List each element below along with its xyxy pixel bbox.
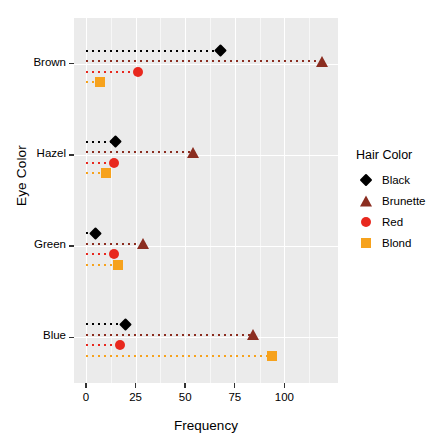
series-leader-line (86, 334, 253, 336)
series-leader-line (86, 71, 138, 73)
x-axis-tick-label: 75 (215, 391, 255, 403)
x-axis-tick-label: 25 (116, 391, 156, 403)
x-axis-tick-label: 100 (264, 391, 304, 403)
legend-title: Hair Color (356, 148, 444, 162)
data-point-square-marker (95, 77, 105, 87)
gridline-major-horizontal (74, 337, 338, 338)
y-axis-tick-label: Hazel (0, 147, 66, 159)
chart-root: Eye Color Frequency BrownHazelGreenBlue … (0, 0, 444, 446)
gridline-minor-vertical (111, 18, 112, 383)
y-axis-tick-label: Green (0, 238, 66, 250)
gridline-minor-vertical (210, 18, 211, 383)
gridline-major-horizontal (74, 155, 338, 156)
y-axis-tick (69, 337, 74, 338)
gridline-major-vertical (86, 18, 87, 383)
x-axis-tick (184, 383, 185, 388)
x-axis-tick (135, 383, 136, 388)
x-axis-tick (234, 383, 235, 388)
data-point-circle-marker (115, 340, 125, 350)
data-point-diamond-marker (89, 227, 102, 240)
gridline-minor-vertical (260, 18, 261, 383)
legend-item-label: Red (382, 216, 403, 228)
data-point-circle-marker (109, 158, 119, 168)
data-point-diamond-marker (215, 44, 228, 57)
data-point-square-marker (101, 168, 111, 178)
gridline-major-vertical (235, 18, 236, 383)
data-point-diamond-marker (119, 318, 132, 331)
data-point-circle-marker (109, 249, 119, 259)
legend-item-blond[interactable]: Blond (356, 232, 444, 253)
series-leader-line (86, 355, 273, 357)
data-point-triangle-marker (247, 329, 259, 340)
legend-item-label: Blond (382, 237, 411, 249)
data-point-circle-marker (133, 67, 143, 77)
legend-item-brunette[interactable]: Brunette (356, 190, 444, 211)
triangle-marker-icon (356, 191, 376, 211)
series-leader-line (86, 243, 144, 245)
data-point-triangle-marker (137, 238, 149, 249)
data-point-triangle-marker (316, 56, 328, 67)
gridline-major-vertical (185, 18, 186, 383)
square-marker-icon (356, 233, 376, 253)
series-leader-line (86, 60, 322, 62)
y-axis-tick-label: Blue (0, 329, 66, 341)
y-axis-tick (69, 154, 74, 155)
gridline-minor-vertical (160, 18, 161, 383)
x-axis-title: Frequency (74, 418, 338, 433)
x-axis-tick-label: 50 (165, 391, 205, 403)
y-axis-tick (69, 63, 74, 64)
y-axis-title: Eye Color (14, 121, 29, 231)
x-axis-tick (284, 383, 285, 388)
data-point-triangle-marker (187, 147, 199, 158)
diamond-marker-icon (356, 170, 376, 190)
legend-item-red[interactable]: Red (356, 211, 444, 232)
data-point-square-marker (113, 260, 123, 270)
y-axis-tick (69, 245, 74, 246)
legend-item-label: Brunette (382, 195, 425, 207)
plot-panel (74, 18, 338, 383)
gridline-major-vertical (284, 18, 285, 383)
legend-item-label: Black (382, 174, 410, 186)
circle-marker-icon (356, 212, 376, 232)
data-point-square-marker (267, 351, 277, 361)
gridline-major-horizontal (74, 64, 338, 65)
y-axis-tick-label: Brown (0, 56, 66, 68)
x-axis-tick-label: 0 (66, 391, 106, 403)
legend-item-black[interactable]: Black (356, 169, 444, 190)
series-leader-line (86, 50, 221, 52)
gridline-minor-vertical (309, 18, 310, 383)
x-axis-tick (85, 383, 86, 388)
legend: Hair Color BlackBrunetteRedBlond (356, 148, 444, 253)
series-leader-line (86, 151, 193, 153)
gridline-major-horizontal (74, 246, 338, 247)
